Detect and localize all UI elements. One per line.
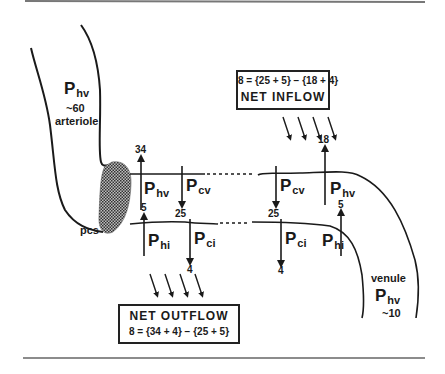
capillary-lower-wall-right [252, 222, 364, 318]
phv-venous-value: 18 [318, 135, 329, 145]
precapillary-sphincter [99, 162, 131, 234]
arteriole-pressure-label: Phv [64, 80, 89, 99]
arteriole-label: arteriole [55, 116, 98, 127]
arteriole-pressure-value: ~60 [66, 103, 85, 114]
phi-arterial-label: Phi [148, 232, 170, 251]
phi-arterial-value: 5 [141, 203, 147, 213]
net-inflow-box: 8 = {25 + 5} − {18 + 4} NET INFLOW [236, 70, 330, 110]
net-outflow-box: NET OUTFLOW 8 = {34 + 4} − {25 + 5} [118, 304, 240, 344]
net-outflow-equation: 8 = {34 + 4} − {25 + 5} [120, 327, 238, 337]
pci-venous-value: 4 [278, 266, 284, 276]
venule-pressure-label: Phv [375, 287, 400, 306]
phi-venous-value: 5 [338, 200, 344, 210]
phi-venous-label: Phi [322, 232, 344, 251]
outflow-arrows [150, 274, 202, 295]
pci-arterial-value: 4 [187, 265, 193, 275]
pcv-venous-value: 25 [268, 209, 279, 219]
net-inflow-equation: 8 = {25 + 5} − {18 + 4} [238, 76, 328, 86]
pcv-venous-label: Pcv [280, 177, 305, 196]
venule-label: venule [371, 273, 406, 284]
pcv-arterial-value: 25 [175, 209, 186, 219]
pci-venous-label: Pci [285, 230, 307, 249]
phv-arterial-label: Phv [144, 180, 169, 199]
top-rule [25, 1, 425, 2]
pci-arterial-label: Pci [194, 230, 216, 249]
phv-arterial-value: 34 [135, 145, 146, 155]
net-inflow-title: NET INFLOW [238, 91, 328, 103]
arteriole-left-wall [31, 48, 103, 232]
pcv-arterial-label: Pcv [186, 177, 211, 196]
net-outflow-title: NET OUTFLOW [120, 310, 238, 322]
phv-venous-label: Phv [330, 180, 355, 199]
venule-pressure-value: ~10 [382, 308, 401, 319]
sphincter-label: pcs [80, 225, 99, 236]
